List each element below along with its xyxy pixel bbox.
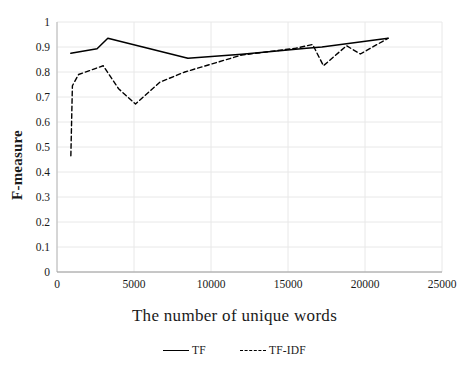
legend-swatch-dashed-icon bbox=[240, 350, 266, 351]
y-tick-label: 0.1 bbox=[36, 241, 51, 253]
x-axis-tick-labels: 0500010000150002000025000 bbox=[54, 278, 457, 290]
y-tick-label: 0.2 bbox=[36, 216, 51, 228]
y-tick-label: 0 bbox=[44, 266, 50, 278]
x-tick-label: 5000 bbox=[123, 278, 146, 290]
x-tick-label: 20000 bbox=[351, 278, 380, 290]
legend-label: TF bbox=[192, 344, 206, 356]
y-tick-label: 0.9 bbox=[36, 41, 51, 53]
series-line-tf bbox=[71, 38, 388, 58]
x-tick-label: 25000 bbox=[428, 278, 457, 290]
legend-swatch-solid-icon bbox=[163, 350, 189, 351]
chart-legend: TFTF-IDF bbox=[0, 344, 469, 356]
legend-item-tf[interactable]: TF bbox=[163, 344, 206, 356]
y-tick-label: 0.5 bbox=[36, 141, 51, 153]
y-tick-label: 0.7 bbox=[36, 91, 51, 103]
chart-figure: 00.10.20.30.40.50.60.70.80.91 0500010000… bbox=[0, 0, 469, 372]
y-axis-title-text: F-measure bbox=[9, 130, 26, 200]
y-tick-label: 0.8 bbox=[36, 66, 51, 78]
y-axis-title: F-measure bbox=[6, 100, 28, 230]
x-tick-label: 10000 bbox=[197, 278, 226, 290]
gridlines bbox=[57, 22, 442, 272]
y-axis-tick-labels: 00.10.20.30.40.50.60.70.80.91 bbox=[36, 16, 51, 278]
legend-item-tf-idf[interactable]: TF-IDF bbox=[240, 344, 306, 356]
y-tick-label: 0.3 bbox=[36, 191, 51, 203]
y-tick-label: 0.6 bbox=[36, 116, 51, 128]
y-tick-label: 0.4 bbox=[36, 166, 51, 178]
legend-label: TF-IDF bbox=[269, 344, 306, 356]
x-tick-label: 15000 bbox=[274, 278, 303, 290]
x-axis-title: The number of unique words bbox=[0, 306, 469, 326]
y-tick-label: 1 bbox=[44, 16, 50, 28]
x-tick-label: 0 bbox=[54, 278, 60, 290]
